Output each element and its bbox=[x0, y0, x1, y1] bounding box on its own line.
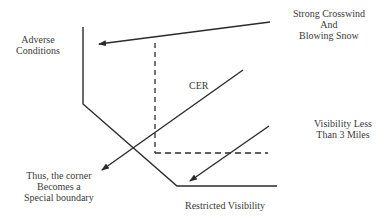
visibility-label: Visibility Less Than 3 Miles bbox=[314, 118, 372, 140]
crosswind-line1: Strong Crosswind bbox=[293, 8, 365, 19]
adverse-conditions-label: Adverse Conditions bbox=[16, 34, 60, 56]
cer-text: CER bbox=[189, 80, 208, 91]
restricted-text: Restricted Visibility bbox=[185, 200, 265, 211]
crosswind-arrow bbox=[99, 22, 270, 44]
crosswind-line3: Blowing Snow bbox=[293, 30, 365, 41]
corner-line3: Special boundary bbox=[24, 192, 94, 203]
visibility-line1: Visibility Less bbox=[314, 118, 372, 129]
adverse-line1: Adverse bbox=[16, 34, 60, 45]
cer-label: CER bbox=[189, 80, 208, 91]
corner-label: Thus, the corner Becomes a Special bound… bbox=[24, 170, 94, 203]
adverse-line2: Conditions bbox=[16, 45, 60, 56]
corner-line2: Becomes a bbox=[24, 181, 94, 192]
restricted-visibility-label: Restricted Visibility bbox=[185, 200, 265, 211]
visibility-line2: Than 3 Miles bbox=[314, 129, 372, 140]
crosswind-label: Strong Crosswind And Blowing Snow bbox=[293, 8, 365, 41]
cer-arrow bbox=[102, 70, 243, 170]
corner-line1: Thus, the corner bbox=[24, 170, 94, 181]
crosswind-line2: And bbox=[293, 19, 365, 30]
